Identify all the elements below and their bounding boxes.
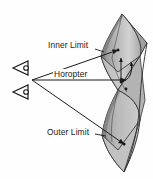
inner-limit-label: Inner Limit <box>47 40 89 50</box>
outer-limit-endpoint-dot <box>122 142 125 145</box>
pupil-icon <box>24 90 29 95</box>
curved-arrow-node-dot <box>125 88 128 91</box>
inner-limit-endpoint-dot <box>117 49 120 52</box>
horopter-diagram-svg <box>0 0 153 179</box>
pupil-icon <box>24 66 29 71</box>
lower-eye-group <box>13 85 28 99</box>
outer-limit-label: Outer Limit <box>46 127 90 137</box>
upper-eye-group <box>13 61 28 75</box>
panum-surface-group <box>101 14 147 172</box>
figure-root: Inner Limit Horopter Outer Limit <box>0 0 153 179</box>
depth-arrow-origin-dot <box>120 81 123 84</box>
horopter-label: Horopter <box>53 69 88 79</box>
